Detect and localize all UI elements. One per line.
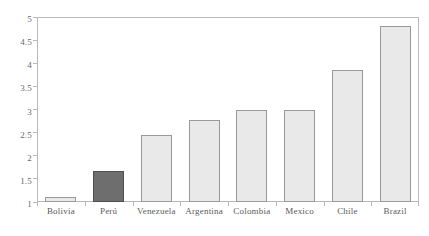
- y-axis-tick-label: 1: [27, 199, 37, 209]
- bar-per-[interactable]: [93, 171, 124, 202]
- bar-colombia[interactable]: [236, 110, 267, 202]
- y-axis-tick: 3: [27, 104, 37, 116]
- y-axis-tick-label: 2.5: [20, 130, 37, 140]
- x-axis-label-per-: Perú: [85, 206, 133, 216]
- x-axis-label-colombia: Colombia: [228, 206, 276, 216]
- x-axis-label-argentina: Argentina: [180, 206, 228, 216]
- x-axis-label-mexico: Mexico: [276, 206, 324, 216]
- y-axis-tick: 3.5: [20, 80, 37, 92]
- y-axis-tick: 2.5: [20, 127, 37, 139]
- bar-mexico[interactable]: [284, 110, 315, 202]
- y-axis-tick-label: 5: [27, 14, 37, 24]
- bar-chart: 54.543.532.521.51 BoliviaPerúVenezuelaAr…: [0, 0, 429, 236]
- x-axis-label-venezuela: Venezuela: [133, 206, 181, 216]
- y-axis-tick: 4: [27, 57, 37, 69]
- x-axis-labels: BoliviaPerúVenezuelaArgentinaColombiaMex…: [37, 206, 419, 226]
- bar-argentina[interactable]: [189, 120, 220, 202]
- y-axis-tick: 1.5: [20, 173, 37, 185]
- bar-chile[interactable]: [332, 70, 363, 202]
- y-axis-tick-label: 4: [27, 60, 37, 70]
- y-axis-tick: 4.5: [20, 34, 37, 46]
- bar-bolivia[interactable]: [45, 197, 76, 202]
- y-axis-tick-label: 3: [27, 107, 37, 117]
- bar-venezuela[interactable]: [141, 135, 172, 202]
- y-axis-tick: 1: [27, 196, 37, 208]
- y-axis-tick-label: 2: [27, 153, 37, 163]
- y-axis-tick: 2: [27, 150, 37, 162]
- x-axis-label-bolivia: Bolivia: [37, 206, 85, 216]
- x-axis-label-chile: Chile: [324, 206, 372, 216]
- y-axis-tick-label: 1.5: [20, 176, 37, 186]
- y-axis: 54.543.532.521.51: [0, 0, 37, 236]
- y-axis-tick: 5: [27, 11, 37, 23]
- y-axis-tick-label: 4.5: [20, 37, 37, 47]
- x-axis-label-brazil: Brazil: [371, 206, 419, 216]
- bar-brazil[interactable]: [380, 26, 411, 202]
- bars-container: [37, 17, 419, 202]
- y-axis-tick-label: 3.5: [20, 83, 37, 93]
